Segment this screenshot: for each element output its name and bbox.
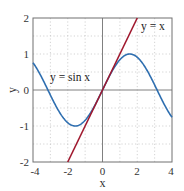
annotation-sin-x: y = sin x xyxy=(50,71,90,84)
y-axis-label: y xyxy=(5,87,19,93)
chart: y = x y = sin x 2 1 0 -1 -2 -4 -2 0 2 4 … xyxy=(0,0,184,191)
x-tick-label: -4 xyxy=(30,165,40,177)
y-tick-label: -1 xyxy=(20,120,29,132)
x-tick-label: -2 xyxy=(63,165,72,177)
x-tick-label: 2 xyxy=(134,165,140,177)
x-tick-label: 4 xyxy=(168,165,174,177)
y-tick-label: -2 xyxy=(20,156,29,168)
y-tick-label: 0 xyxy=(24,84,30,96)
x-axis-label: x xyxy=(100,176,106,190)
y-tick-label: 2 xyxy=(24,12,30,24)
y-tick-label: 1 xyxy=(24,48,30,60)
annotation-y-equals-x: y = x xyxy=(141,20,165,33)
